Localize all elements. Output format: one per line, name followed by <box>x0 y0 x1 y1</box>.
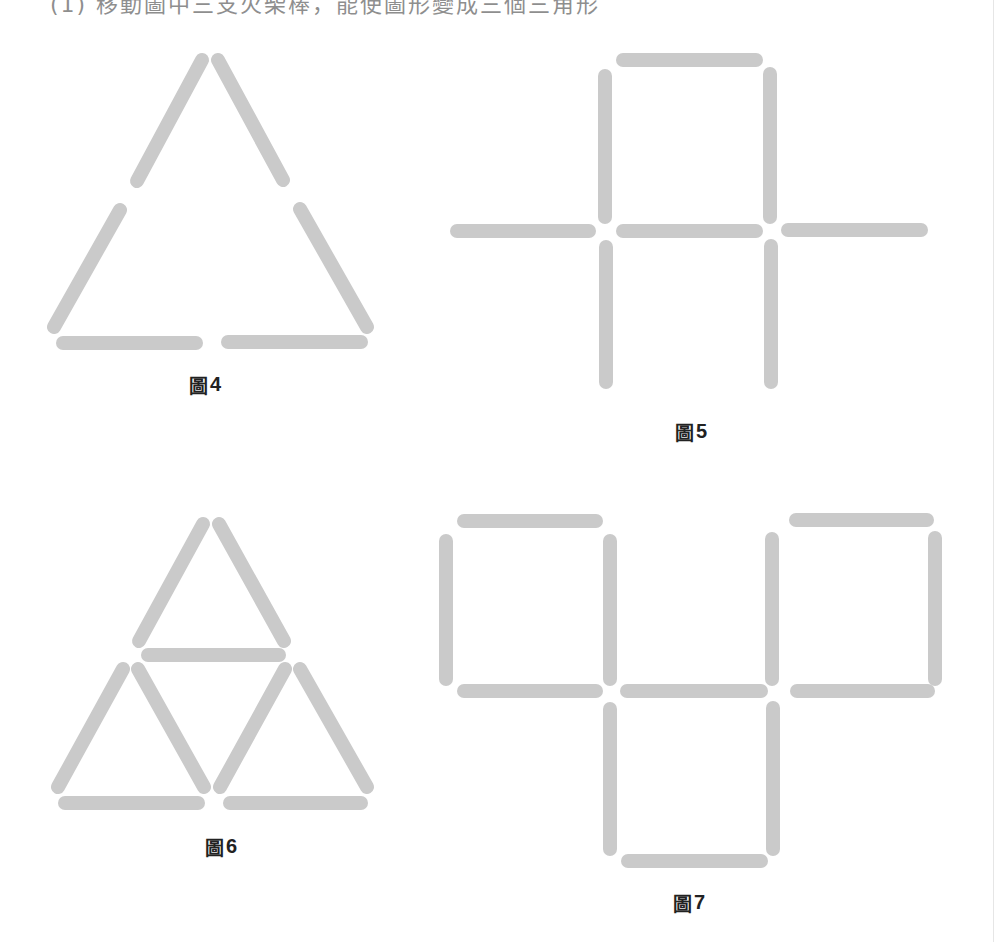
figure-7-matchsticks <box>446 520 935 861</box>
figure-char: 圖 <box>189 371 208 398</box>
figure-6-label: 圖6 <box>205 833 237 860</box>
matchstick-diagrams <box>0 0 996 942</box>
figure-char: 圖 <box>673 889 692 916</box>
figure-char: 圖 <box>675 418 694 445</box>
figure-7-label: 圖7 <box>673 889 705 916</box>
figure-4-matchsticks <box>54 60 367 343</box>
figure-5-matchsticks <box>457 60 921 382</box>
figure-number: 7 <box>694 891 705 914</box>
figure-number: 5 <box>696 420 707 443</box>
figure-6-matchsticks <box>58 524 367 803</box>
figure-number: 4 <box>210 373 221 396</box>
page-edge-divider <box>993 0 994 942</box>
figure-4-label: 圖4 <box>189 371 221 398</box>
figure-number: 6 <box>226 835 237 858</box>
figure-5-label: 圖5 <box>675 418 707 445</box>
figure-char: 圖 <box>205 833 224 860</box>
